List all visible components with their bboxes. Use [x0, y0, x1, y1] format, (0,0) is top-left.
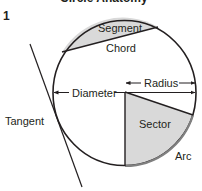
- diameter-label: Diameter: [72, 87, 117, 99]
- cut-off-header: Circle Anatomy: [60, 0, 148, 5]
- sector-label: Sector: [139, 118, 171, 130]
- segment-label: Segment: [98, 22, 142, 34]
- chord-label: Chord: [106, 42, 136, 54]
- tangent-label: Tangent: [5, 115, 44, 127]
- circle-parts-diagram: Circle Anatomy 1 Segment Chord Radius Di…: [0, 0, 202, 191]
- arc-label: Arc: [175, 150, 192, 162]
- figure-number: 1: [3, 9, 10, 23]
- radius-label: Radius: [144, 77, 179, 89]
